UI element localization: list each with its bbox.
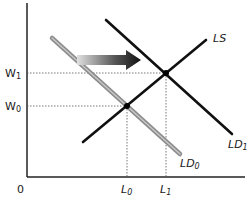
- w0-label: W0: [5, 100, 21, 114]
- equilibrium-point-0: [124, 103, 130, 109]
- w1-label: W1: [5, 67, 21, 81]
- l0-label: L0: [121, 183, 132, 197]
- ld1-label: LD1: [228, 138, 248, 152]
- labor-market-diagram: W1 W0 0 L0 L1 LS LD0 LD1: [0, 0, 250, 198]
- equilibrium-point-1: [163, 70, 169, 76]
- l1-label: L1: [160, 183, 171, 197]
- origin-label: 0: [17, 183, 24, 196]
- ls-label: LS: [213, 32, 226, 45]
- ld0-label: LD0: [180, 157, 200, 171]
